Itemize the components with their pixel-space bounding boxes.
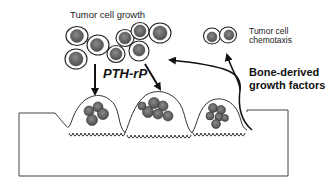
chemotaxis-cells — [204, 27, 237, 44]
osteoclast-nuclei — [84, 98, 229, 129]
pthrp-label: PTH-rP — [103, 66, 147, 81]
arrow-to-chemotaxis-icon — [227, 55, 240, 90]
bone-growth-factors-label: Bone-derived growth factors — [249, 66, 325, 92]
arrow-diagonal-icon — [145, 64, 160, 89]
bone-matrix — [19, 110, 288, 176]
chemotaxis-label: Tumor cell chemotaxis — [249, 27, 292, 45]
bone-factors-line2: growth factors — [249, 79, 325, 92]
tumor-cell-cluster — [65, 23, 171, 70]
bone-factors-line1: Bone-derived — [249, 66, 325, 79]
tumor-growth-label: Tumor cell growth — [70, 9, 145, 20]
diagram-canvas: Tumor cell growth Tumor cell chemotaxis … — [0, 0, 333, 184]
chemotaxis-label-line2: chemotaxis — [249, 36, 292, 45]
